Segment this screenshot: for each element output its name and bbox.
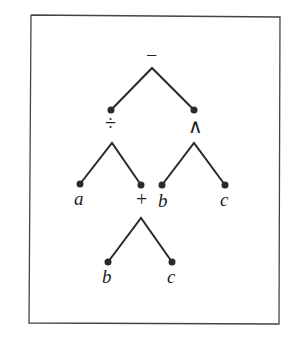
leaf-b1-label: b: [158, 190, 168, 211]
leaf-c1-dot: [222, 182, 229, 189]
edges-plus: [108, 218, 172, 262]
leaf-a-label: a: [74, 188, 84, 209]
node-pow-dot: [191, 107, 198, 114]
leaf-a-dot: [77, 181, 84, 188]
node-root-label: −: [146, 44, 157, 66]
node-div-label: ÷: [105, 112, 116, 134]
leaf-c1-label: c: [220, 189, 229, 210]
leaf-c2-label: c: [167, 266, 176, 287]
edges-div: [80, 143, 141, 185]
leaf-b2-dot: [105, 259, 112, 266]
node-pow-label: ∧: [188, 115, 203, 137]
leaf-b1-dot: [159, 182, 166, 189]
edges-root: [111, 68, 194, 110]
leaf-b2-label: b: [102, 266, 112, 287]
leaf-c2-dot: [169, 259, 176, 266]
node-plus-label: +: [136, 188, 147, 210]
expression-tree-diagram: − ÷ ∧ a + b c b c: [0, 0, 295, 340]
edges-pow: [162, 143, 225, 185]
